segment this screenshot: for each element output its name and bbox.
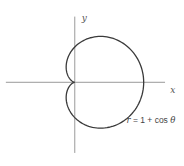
x-axis-label: x <box>170 85 175 95</box>
y-axis-label: y <box>81 13 88 23</box>
equation-theta: θ <box>170 115 175 125</box>
cardioid-plot: x y r = 1 + cos θ <box>0 0 184 166</box>
equation-body: = 1 + cos <box>131 115 171 125</box>
equation-label: r = 1 + cos θ <box>126 115 175 125</box>
